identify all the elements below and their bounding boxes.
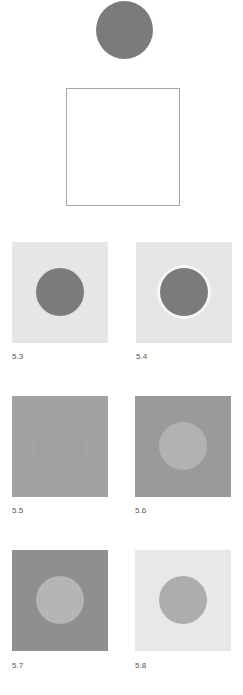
panel-label: 5.3 bbox=[12, 352, 23, 361]
top-gray-circle bbox=[96, 1, 153, 59]
panel-5-4 bbox=[136, 242, 232, 343]
panel-label: 5.4 bbox=[136, 352, 147, 361]
panel-disk bbox=[36, 576, 84, 624]
panel-5-7 bbox=[12, 550, 108, 651]
panel-disk bbox=[36, 422, 84, 470]
panel-disk bbox=[160, 268, 208, 316]
top-empty-square bbox=[66, 88, 180, 206]
panel-disk bbox=[159, 576, 207, 624]
panel-label: 5.5 bbox=[12, 506, 23, 515]
panel-label: 5.6 bbox=[135, 506, 146, 515]
panel-5-6 bbox=[135, 396, 231, 497]
panel-label: 5.8 bbox=[135, 661, 146, 670]
panel-5-3 bbox=[12, 242, 108, 343]
panel-disk bbox=[159, 422, 207, 470]
panel-disk bbox=[36, 268, 84, 316]
panel-5-5 bbox=[12, 396, 108, 497]
panel-5-8 bbox=[135, 550, 231, 651]
panel-label: 5.7 bbox=[12, 661, 23, 670]
